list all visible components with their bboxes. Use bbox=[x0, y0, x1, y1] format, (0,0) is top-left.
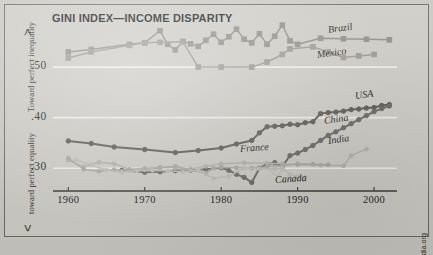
data-point bbox=[273, 167, 277, 171]
data-point bbox=[288, 39, 293, 44]
data-point bbox=[82, 167, 86, 171]
data-point bbox=[181, 170, 185, 174]
data-point bbox=[249, 65, 254, 70]
data-point bbox=[303, 121, 307, 125]
data-point bbox=[257, 131, 261, 135]
data-point bbox=[318, 36, 323, 41]
data-point bbox=[311, 162, 315, 166]
data-point bbox=[142, 41, 147, 46]
y-tick-label-30: .30 bbox=[31, 160, 47, 172]
data-point bbox=[356, 54, 361, 59]
data-point bbox=[89, 163, 93, 167]
data-point bbox=[296, 162, 300, 166]
data-point bbox=[387, 104, 391, 108]
data-point bbox=[74, 158, 78, 162]
data-point bbox=[234, 142, 238, 146]
data-point bbox=[349, 154, 353, 158]
data-point bbox=[66, 56, 71, 61]
data-point bbox=[341, 126, 345, 130]
data-point bbox=[188, 42, 193, 47]
series-label-canada: Canada bbox=[274, 172, 306, 185]
data-point bbox=[112, 145, 116, 149]
data-point bbox=[227, 34, 232, 39]
data-point bbox=[196, 168, 200, 172]
x-tick-label-1980: 1980 bbox=[210, 194, 232, 205]
data-point bbox=[219, 165, 223, 169]
data-point bbox=[219, 146, 223, 150]
data-point bbox=[288, 122, 292, 126]
data-point bbox=[97, 169, 101, 173]
data-point bbox=[173, 164, 177, 168]
data-point bbox=[89, 50, 94, 55]
data-point bbox=[342, 164, 346, 168]
data-point bbox=[341, 36, 346, 41]
data-point bbox=[258, 167, 262, 171]
data-point bbox=[249, 41, 254, 46]
x-tick-label-2000: 2000 bbox=[363, 194, 385, 205]
data-point bbox=[311, 120, 315, 124]
x-tick-label-1960: 1960 bbox=[57, 194, 79, 205]
arrow-up-icon: > bbox=[20, 28, 35, 36]
data-point bbox=[120, 170, 124, 174]
data-point bbox=[364, 113, 368, 117]
data-point bbox=[234, 27, 239, 32]
arrow-down-icon: < bbox=[20, 224, 35, 232]
data-point bbox=[318, 138, 322, 142]
data-point bbox=[66, 139, 70, 143]
data-point bbox=[227, 174, 231, 178]
data-point bbox=[150, 168, 154, 172]
data-point bbox=[365, 147, 369, 151]
data-point bbox=[166, 169, 170, 173]
data-point bbox=[364, 106, 368, 110]
data-point bbox=[265, 60, 270, 65]
data-point bbox=[272, 34, 277, 39]
source-credit: Source: http://en.wikipedia.org bbox=[420, 233, 427, 255]
chart-figure: GINI INDEX—INCOME DISPARITY Toward perfe… bbox=[0, 0, 433, 255]
data-point bbox=[288, 47, 293, 52]
data-point bbox=[97, 160, 101, 164]
data-point bbox=[135, 169, 139, 173]
data-point bbox=[196, 44, 201, 49]
x-tick-label-1970: 1970 bbox=[134, 194, 156, 205]
data-point bbox=[158, 40, 163, 45]
data-point bbox=[280, 23, 285, 28]
data-point bbox=[112, 162, 116, 166]
data-point bbox=[303, 147, 307, 151]
data-point bbox=[257, 31, 262, 36]
data-point bbox=[372, 109, 376, 113]
data-point bbox=[318, 111, 322, 115]
data-point bbox=[227, 168, 231, 172]
data-point bbox=[311, 45, 316, 50]
x-tick-label-1990: 1990 bbox=[287, 194, 309, 205]
data-point bbox=[89, 141, 93, 145]
data-point bbox=[219, 40, 224, 45]
data-point bbox=[250, 180, 254, 184]
data-point bbox=[242, 175, 246, 179]
data-point bbox=[242, 161, 246, 165]
data-point bbox=[311, 143, 315, 147]
data-point bbox=[127, 43, 132, 48]
data-point bbox=[105, 168, 109, 172]
data-point bbox=[235, 166, 239, 170]
data-point bbox=[242, 37, 247, 42]
y-tick-label-50: .50 bbox=[31, 59, 47, 71]
data-point bbox=[288, 153, 292, 157]
data-point bbox=[158, 28, 163, 33]
data-point bbox=[212, 176, 216, 180]
data-point bbox=[295, 42, 300, 47]
data-point bbox=[295, 123, 299, 127]
y-tick-label-40: .40 bbox=[31, 110, 47, 122]
data-point bbox=[196, 148, 200, 152]
data-point bbox=[265, 42, 270, 47]
data-point bbox=[173, 48, 178, 53]
data-point bbox=[265, 125, 269, 129]
data-point bbox=[357, 117, 361, 121]
data-point bbox=[272, 124, 276, 128]
data-point bbox=[295, 151, 299, 155]
data-point bbox=[349, 122, 353, 126]
data-point bbox=[387, 37, 392, 42]
data-point bbox=[204, 38, 209, 43]
data-point bbox=[143, 147, 147, 151]
data-point bbox=[219, 65, 224, 70]
data-point bbox=[66, 156, 70, 160]
